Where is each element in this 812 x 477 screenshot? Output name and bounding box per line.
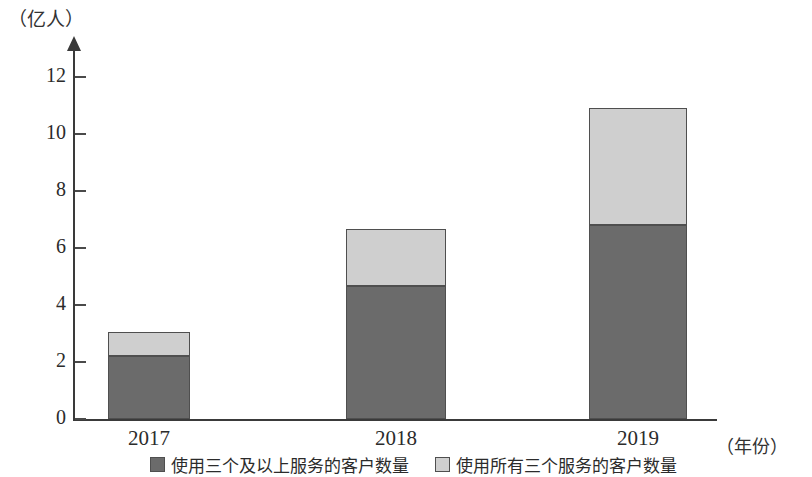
bar-2017: [108, 332, 190, 419]
legend-label: 使用三个及以上服务的客户数量: [171, 452, 409, 477]
y-tick: [75, 76, 86, 78]
legend-label: 使用所有三个服务的客户数量: [456, 452, 677, 477]
y-axis-arrow-icon: [67, 36, 81, 51]
y-tick: [75, 418, 86, 420]
y-tick: [75, 304, 86, 306]
y-tick-label: 8: [0, 178, 66, 201]
bar-segment-upper-2019: [589, 108, 687, 225]
chart-legend: 使用三个及以上服务的客户数量使用所有三个服务的客户数量: [150, 452, 677, 477]
bar-segment-lower-2018: [346, 286, 446, 419]
bar-segment-upper-2018: [346, 229, 446, 286]
bar-segment-upper-2017: [108, 332, 190, 356]
x-category-label-2018: 2018: [316, 426, 476, 451]
x-axis-line: [73, 419, 717, 421]
x-axis-title: （年份）: [716, 432, 788, 458]
y-tick-label: 2: [0, 349, 66, 372]
legend-item-1: 使用所有三个服务的客户数量: [435, 452, 677, 477]
y-tick: [75, 361, 86, 363]
legend-item-0: 使用三个及以上服务的客户数量: [150, 452, 409, 477]
bar-segment-lower-2017: [108, 356, 190, 419]
x-category-label-2017: 2017: [78, 426, 220, 451]
y-tick-label: 4: [0, 292, 66, 315]
y-tick-label: 12: [0, 64, 66, 87]
y-tick: [75, 190, 86, 192]
bar-2019: [589, 108, 687, 419]
y-axis-line: [73, 48, 75, 420]
y-tick: [75, 247, 86, 249]
y-tick-label: 0: [0, 406, 66, 429]
legend-swatch-icon: [435, 457, 450, 472]
bar-segment-lower-2019: [589, 225, 687, 419]
legend-swatch-icon: [150, 457, 165, 472]
x-category-label-2019: 2019: [559, 426, 717, 451]
y-tick-label: 6: [0, 235, 66, 258]
y-axis-title: （亿人）: [8, 4, 84, 31]
y-tick-label: 10: [0, 121, 66, 144]
y-tick: [75, 133, 86, 135]
bar-2018: [346, 229, 446, 419]
